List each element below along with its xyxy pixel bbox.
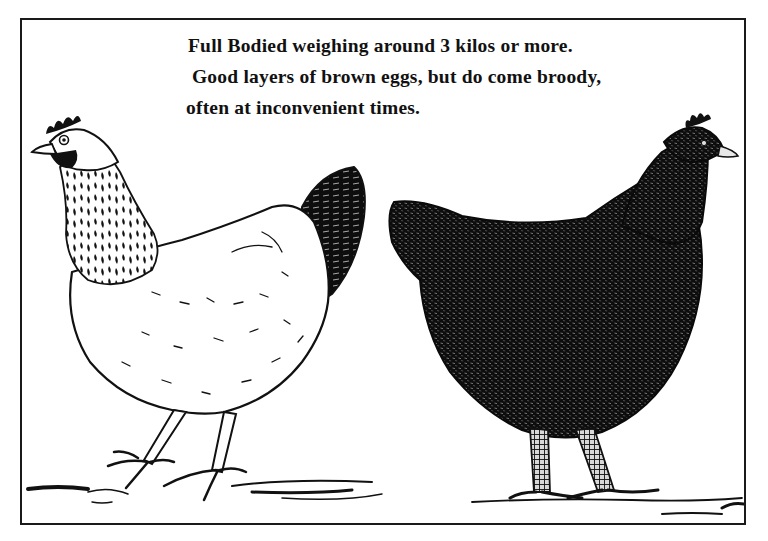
light-hen-figure: [32, 116, 365, 500]
ground-right: [472, 498, 744, 514]
black-hen-figure: [389, 113, 738, 498]
hens-illustration: [22, 20, 744, 523]
illustration-frame: Full Bodied weighing around 3 kilos or m…: [20, 18, 746, 525]
